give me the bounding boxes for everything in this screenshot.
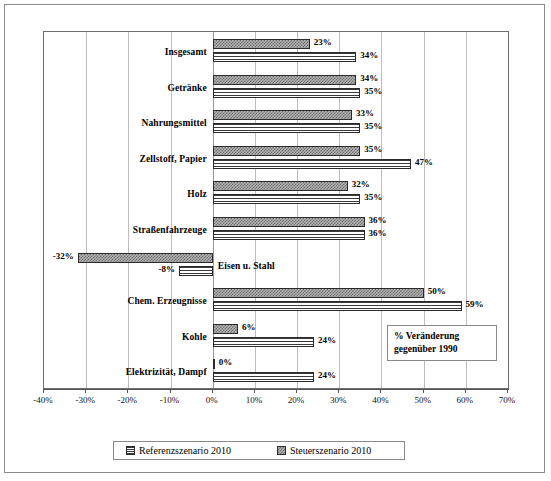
- x-tick-label-30: 30%: [330, 395, 347, 405]
- bar-referenzszenario: [213, 301, 462, 311]
- bar-group-row: Zellstoff, Papier35%47%: [44, 141, 508, 177]
- legend-item-steuerszenario: Steuerszenario 2010: [277, 445, 371, 456]
- bar-group-row: Chem. Erzeugnisse50%59%: [44, 283, 508, 319]
- bar-referenzszenario: [213, 52, 356, 62]
- value-label: 47%: [415, 157, 433, 168]
- x-tick-label--20: -20%: [118, 395, 138, 405]
- bar-referenzszenario: [213, 159, 411, 169]
- legend-swatch-steuerszenario-icon: [277, 446, 286, 455]
- value-label: 35%: [364, 121, 382, 132]
- value-label: 34%: [360, 73, 378, 84]
- value-label: 6%: [242, 322, 256, 333]
- category-label: Elektrizität, Dampf: [126, 367, 207, 377]
- bar-group-row: Getränke34%35%: [44, 70, 508, 106]
- category-label: Getränke: [167, 83, 206, 93]
- value-label: -8%: [158, 264, 175, 275]
- value-label: 36%: [369, 215, 387, 226]
- value-label: 50%: [428, 286, 446, 297]
- x-tick-label--10: -10%: [160, 395, 180, 405]
- category-label: Zellstoff, Papier: [140, 154, 207, 164]
- chart-legend: Referenzszenario 2010 Steuerszenario 201…: [113, 441, 405, 460]
- legend-swatch-referenzszenario-icon: [126, 446, 135, 455]
- x-tick-label-50: 50%: [414, 395, 431, 405]
- bar-steuerszenario: [213, 359, 215, 369]
- x-tick-label-0: 0%: [206, 395, 218, 405]
- category-label: Holz: [187, 189, 206, 199]
- x-tick--30: [85, 389, 86, 393]
- legend-item-referenzszenario: Referenzszenario 2010: [126, 445, 231, 456]
- annotation-line-1: % Veränderung: [394, 330, 490, 343]
- bar-steuerszenario: [213, 217, 365, 227]
- bar-group-row: Holz32%35%: [44, 176, 508, 212]
- x-tick-label-70: 70%: [499, 395, 516, 405]
- bar-group-row: Eisen u. Stahl-32%-8%: [44, 248, 508, 284]
- bar-steuerszenario: [78, 253, 213, 263]
- x-tick-label--30: -30%: [75, 395, 95, 405]
- value-label: 35%: [364, 86, 382, 97]
- annotation-line-2: gegenüber 1990: [394, 343, 490, 356]
- value-label: 24%: [318, 370, 336, 381]
- category-label: Chem. Erzeugnisse: [127, 296, 206, 306]
- x-tick-label-60: 60%: [457, 395, 474, 405]
- bar-referenzszenario: [213, 337, 314, 347]
- legend-label-referenzszenario: Referenzszenario 2010: [139, 445, 231, 456]
- bar-steuerszenario: [213, 75, 356, 85]
- bar-referenzszenario: [213, 88, 361, 98]
- x-axis: -40%-30%-20%-10%0%10%20%30%40%50%60%70%: [43, 389, 509, 391]
- x-axis-line: [43, 389, 509, 390]
- value-label: 23%: [314, 37, 332, 48]
- bar-group-row: Straßenfahrzeuge36%36%: [44, 212, 508, 248]
- x-tick--10: [170, 389, 171, 393]
- bar-referenzszenario: [213, 194, 361, 204]
- bar-referenzszenario: [213, 372, 314, 382]
- annotation-box: % Veränderung gegenüber 1990: [387, 325, 497, 361]
- category-label: Kohle: [182, 332, 207, 342]
- x-tick-20: [296, 389, 297, 393]
- bar-steuerszenario: [213, 146, 361, 156]
- bar-steuerszenario: [213, 39, 310, 49]
- x-tick-10: [254, 389, 255, 393]
- bar-referenzszenario: [213, 123, 361, 133]
- x-tick-70: [507, 389, 508, 393]
- bar-steuerszenario: [213, 288, 424, 298]
- x-tick-40: [380, 389, 381, 393]
- bar-referenzszenario: [213, 230, 365, 240]
- value-label: -32%: [53, 251, 74, 262]
- value-label: 24%: [318, 335, 336, 346]
- x-tick--20: [127, 389, 128, 393]
- bar-steuerszenario: [213, 181, 348, 191]
- x-tick-label-20: 20%: [288, 395, 305, 405]
- bar-group-row: Nahrungsmittel33%35%: [44, 105, 508, 141]
- category-label: Nahrungsmittel: [141, 118, 206, 128]
- x-tick-label-40: 40%: [372, 395, 389, 405]
- category-label: Eisen u. Stahl: [218, 261, 275, 271]
- x-tick-30: [338, 389, 339, 393]
- x-tick--40: [43, 389, 44, 393]
- x-tick-label-10: 10%: [246, 395, 263, 405]
- chart-outer-frame: Insgesamt23%34%Getränke34%35%Nahrungsmit…: [4, 4, 545, 473]
- category-label: Straßenfahrzeuge: [133, 225, 207, 235]
- value-label: 32%: [352, 179, 370, 190]
- legend-label-steuerszenario: Steuerszenario 2010: [290, 445, 371, 456]
- value-label: 35%: [364, 144, 382, 155]
- value-label: 0%: [219, 357, 233, 368]
- value-label: 34%: [360, 50, 378, 61]
- bar-group-row: Insgesamt23%34%: [44, 34, 508, 70]
- bar-steuerszenario: [213, 110, 352, 120]
- bar-referenzszenario: [179, 266, 213, 276]
- value-label: 33%: [356, 108, 374, 119]
- x-tick-60: [465, 389, 466, 393]
- value-label: 36%: [369, 228, 387, 239]
- value-label: 35%: [364, 192, 382, 203]
- x-tick-0: [212, 389, 213, 393]
- bar-steuerszenario: [213, 324, 238, 334]
- x-tick-50: [423, 389, 424, 393]
- category-label: Insgesamt: [165, 47, 207, 57]
- value-label: 59%: [466, 299, 484, 310]
- x-tick-label--40: -40%: [33, 395, 53, 405]
